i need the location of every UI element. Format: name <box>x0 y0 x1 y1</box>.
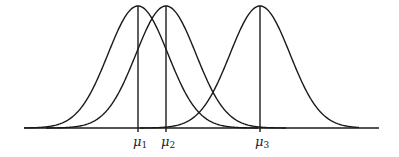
normal-curves-diagram: μ1μ2μ3 <box>0 0 399 157</box>
mean-label-1: μ1 <box>133 134 147 150</box>
mean-label-2: μ2 <box>161 134 175 150</box>
curve-1 <box>24 6 258 128</box>
mean-label-3: μ3 <box>255 134 269 150</box>
